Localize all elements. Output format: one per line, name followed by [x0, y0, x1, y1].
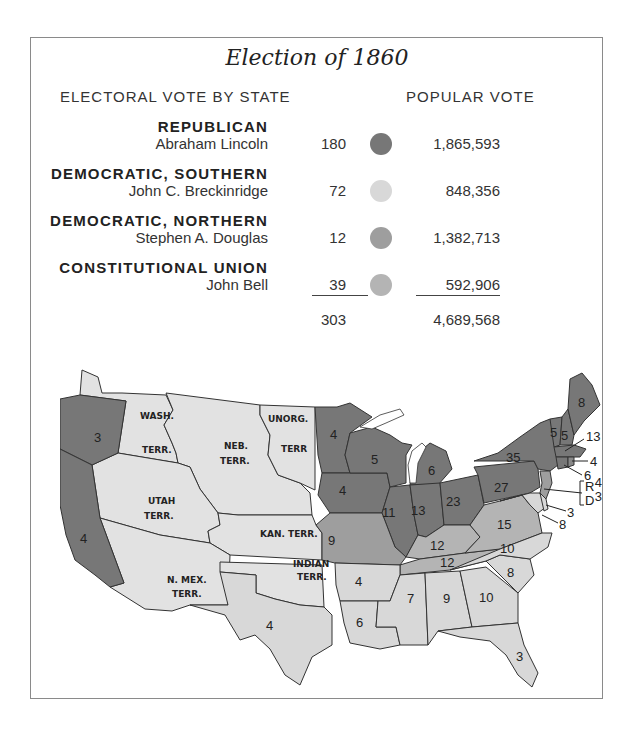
candidate-name: John C. Breckinridge [129, 182, 268, 199]
party-name: DEMOCRATIC, NORTHERN [50, 212, 268, 229]
popular-votes: 848,356 [400, 182, 500, 199]
electoral-votes: 39 [290, 276, 346, 293]
ev-rhode-island: 4 [590, 454, 597, 469]
ev-georgia: 10 [479, 590, 493, 605]
ev-alabama: 9 [443, 591, 450, 606]
map-label: NEB. [224, 441, 248, 451]
ev-delaware: 3 [567, 505, 574, 520]
ev-missouri: 9 [328, 533, 335, 548]
connecticut-state [556, 457, 568, 469]
ev-louisiana: 6 [356, 615, 363, 630]
party-color-swatch [370, 274, 392, 296]
iowa-state [318, 473, 390, 513]
ev-kentucky: 12 [430, 538, 444, 553]
ev-new-jersey-d: 3 [595, 489, 602, 504]
map-label: TERR. [142, 445, 172, 455]
ev-texas: 4 [266, 618, 273, 633]
party-color-swatch [370, 227, 392, 249]
map-label: TERR. [172, 589, 202, 599]
ev-maryland: 8 [559, 517, 566, 532]
ev-iowa: 4 [339, 483, 346, 498]
massachusetts-state [554, 445, 586, 457]
ev-south-carolina: 8 [507, 565, 514, 580]
ev-pennsylvania: 27 [494, 480, 508, 495]
map-label: KAN. TERR. [260, 529, 318, 539]
ev-new-hampshire: 5 [561, 428, 568, 443]
ev-oregon: 3 [94, 430, 101, 445]
ev-new-jersey-r: 4 [595, 475, 602, 490]
ev-illinois: 11 [382, 505, 396, 520]
ev-michigan: 6 [428, 463, 435, 478]
popular-votes: 592,906 [400, 276, 500, 293]
nj-r-label: R [585, 479, 594, 494]
ev-massachusetts: 13 [586, 429, 600, 444]
ev-maine: 8 [578, 395, 585, 410]
popular-votes: 1,865,593 [400, 135, 500, 152]
ev-mississippi: 7 [407, 591, 414, 606]
map-label: TERR [281, 444, 307, 454]
us-electoral-map: WASH. TERR. NEB. TERR. UNORG. TERR UTAH … [60, 365, 605, 690]
map-label: WASH. [140, 411, 174, 421]
ev-north-carolina: 10 [500, 541, 514, 556]
ev-vermont: 5 [550, 425, 557, 440]
ev-indiana: 13 [411, 503, 425, 518]
ev-ohio: 23 [446, 494, 460, 509]
map-label: TERR. [144, 511, 174, 521]
party-name: REPUBLICAN [158, 118, 268, 135]
popular-total-rule [416, 295, 500, 296]
map-label: TERR. [297, 572, 327, 582]
ev-tennessee: 12 [440, 555, 454, 570]
map-label: TERR. [220, 456, 250, 466]
electoral-votes: 12 [290, 229, 346, 246]
electoral-votes: 180 [290, 135, 346, 152]
rhode-island-state [568, 457, 574, 467]
party-color-swatch [370, 180, 392, 202]
arkansas-state [335, 563, 400, 601]
map-label: N. MEX. [167, 575, 207, 585]
party-name: DEMOCRATIC, SOUTHERN [51, 165, 268, 182]
popular-total: 4,689,568 [400, 311, 500, 328]
electoral-total: 303 [290, 311, 346, 328]
popular-votes: 1,382,713 [400, 229, 500, 246]
chart-title: Election of 1860 [0, 45, 634, 70]
nj-d-label: D [585, 493, 594, 508]
ev-virginia: 15 [497, 517, 511, 532]
candidate-name: Abraham Lincoln [155, 135, 268, 152]
candidate-name: John Bell [206, 276, 268, 293]
ev-arkansas: 4 [355, 574, 362, 589]
electoral-vote-header: ELECTORAL VOTE BY STATE [60, 88, 291, 105]
map-label: UNORG. [268, 414, 308, 424]
party-color-swatch [370, 133, 392, 155]
map-label: UTAH [148, 496, 175, 506]
candidate-name: Stephen A. Douglas [135, 229, 268, 246]
party-name: CONSTITUTIONAL UNION [59, 259, 268, 276]
ev-california: 4 [80, 531, 87, 546]
popular-vote-header: POPULAR VOTE [406, 88, 535, 105]
ev-minnesota: 4 [330, 427, 337, 442]
electoral-total-rule [312, 295, 368, 296]
ev-florida: 3 [516, 649, 523, 664]
ev-wisconsin: 5 [371, 452, 378, 467]
ev-new-york: 35 [506, 450, 520, 465]
map-label: INDIAN [293, 559, 329, 569]
electoral-votes: 72 [290, 182, 346, 199]
